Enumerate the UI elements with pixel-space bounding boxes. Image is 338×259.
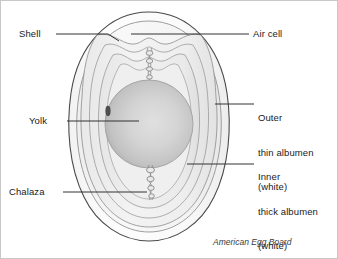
germinal-disc — [105, 106, 110, 116]
attribution-credit: American Egg Board — [213, 237, 291, 247]
yolk — [105, 80, 193, 168]
label-inner-line-2: thick albumen — [258, 206, 318, 218]
diagram-canvas: Shell Yolk Chalaza Air cell Outer thin a… — [0, 0, 338, 259]
yolk-sphere — [105, 80, 193, 168]
label-chalaza: Chalaza — [9, 186, 45, 198]
label-shell: Shell — [19, 28, 41, 40]
label-inner-line-1: Inner — [258, 171, 318, 183]
label-air-cell: Air cell — [253, 28, 282, 40]
label-outer-line-1: Outer — [258, 112, 314, 124]
label-yolk: Yolk — [29, 115, 47, 127]
